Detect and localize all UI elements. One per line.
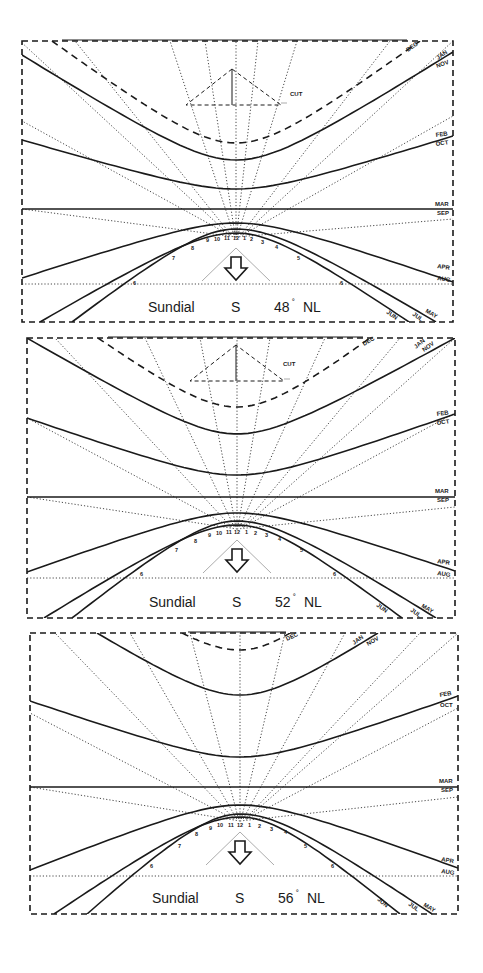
hour-label: 10	[214, 236, 220, 242]
month-label-aug: AUG	[437, 570, 451, 578]
caption-title: Sundial	[148, 299, 195, 315]
hour-line	[238, 41, 297, 235]
month-label-dec: DEC	[362, 335, 377, 347]
month-label-sep: SEP	[437, 497, 449, 503]
hour-label: 5	[297, 255, 300, 261]
month-label-feb: FEB	[439, 690, 453, 698]
hour-label: 12	[237, 822, 243, 828]
hour-line-7	[30, 787, 240, 821]
caption-title: Sundial	[149, 594, 196, 610]
degree-symbol: ˚	[292, 298, 295, 308]
cut-border	[22, 41, 453, 322]
jan-nov-line	[22, 52, 453, 160]
hour-line	[22, 121, 230, 235]
month-label-oct: OCT	[436, 418, 450, 426]
month-label-jun: JUN	[375, 602, 388, 614]
cut-label: CUT	[290, 91, 303, 97]
month-label-jul: JUL	[411, 311, 424, 323]
month-label-jul: JUL	[407, 901, 420, 913]
month-label-feb: FEB	[435, 130, 448, 138]
hour-line	[190, 633, 239, 819]
hour-label: 6	[133, 280, 136, 286]
cut-label: CUT	[283, 361, 296, 367]
month-label-mar: MAR	[439, 778, 453, 784]
month-label-oct: OCT	[435, 139, 449, 147]
hour-line	[244, 338, 455, 527]
hour-label: 10	[217, 822, 223, 828]
hour-line	[243, 41, 453, 235]
hour-label: 5	[300, 547, 303, 553]
hour-label: 11	[228, 822, 234, 828]
month-label-aug: AUG	[441, 868, 455, 876]
month-label-jun: JUN	[385, 309, 398, 321]
degree-symbol: ˚	[296, 889, 299, 899]
hour-line	[237, 41, 258, 235]
hour-line-7	[27, 497, 237, 529]
cut-border	[30, 633, 458, 914]
gnomon-template	[186, 69, 281, 105]
june-line	[54, 817, 400, 914]
caption-latitude: 48	[274, 299, 290, 315]
hour-label: 10	[216, 530, 222, 536]
december-line	[52, 41, 420, 143]
month-label-mar: MAR	[435, 201, 449, 207]
hour-label: 1	[243, 235, 246, 241]
month-label-dec: DEC	[285, 631, 300, 642]
jan-nov-line	[27, 338, 455, 434]
month-label-nov: NOV	[366, 635, 380, 647]
caption-hemisphere: NL	[307, 890, 325, 906]
month-label-sep: SEP	[441, 787, 453, 793]
month-label-apr: APR	[437, 263, 451, 271]
south-arrow-icon	[225, 257, 247, 280]
sundial-panel-56: DECJANNOVFEBOCTMARSEPAPRAUGMAYJULJUN6789…	[30, 631, 458, 914]
cut-border	[27, 338, 455, 618]
june-line	[40, 233, 409, 322]
hour-line	[20, 41, 230, 235]
month-label-sep: SEP	[437, 210, 449, 216]
hour-label: 5	[304, 843, 307, 849]
caption-direction: S	[232, 594, 241, 610]
caption-hemisphere: NL	[304, 594, 322, 610]
month-label-oct: OCT	[440, 702, 453, 708]
month-label-mar: MAR	[435, 488, 449, 494]
caption-title: Sundial	[152, 890, 199, 906]
hour-label: 6	[150, 863, 153, 869]
december-line	[182, 633, 290, 650]
hour-label: 3	[265, 532, 268, 538]
south-arrow-icon	[226, 549, 248, 572]
hour-label: 7	[172, 255, 175, 261]
sundial-panel-48: CUTDECJANNOVFEBOCTMARSEPAPRAUGMAYJULJUN6…	[20, 40, 453, 323]
feb-oct-line	[30, 696, 458, 757]
caption-hemisphere: NL	[303, 299, 321, 315]
hour-label: 9	[206, 237, 209, 243]
hour-line	[170, 41, 234, 235]
hour-label: 9	[209, 825, 212, 831]
hour-label: 7	[178, 843, 181, 849]
caption-latitude: 56	[278, 890, 294, 906]
caption-direction: S	[235, 890, 244, 906]
june-line	[44, 525, 402, 618]
sundial-figure: CUTDECJANNOVFEBOCTMARSEPAPRAUGMAYJULJUN6…	[0, 0, 483, 973]
month-label-may: MAY	[425, 308, 439, 320]
hour-label: 2	[258, 823, 261, 829]
hour-line	[247, 633, 458, 819]
feb-oct-line	[22, 136, 453, 189]
month-label-jan: JAN	[351, 634, 364, 646]
feb-oct-line	[27, 414, 455, 475]
sundial-panel-52: CUTDECJANNOVFEBOCTMARSEPAPRAUGMAYJULJUN6…	[27, 335, 455, 619]
hour-label: 8	[194, 538, 197, 544]
hour-label: 6	[340, 280, 343, 286]
jan-nov-line	[97, 633, 378, 695]
hour-label: 2	[254, 530, 257, 536]
hour-label: 6	[333, 571, 336, 577]
hour-line	[247, 708, 458, 819]
hour-label: 8	[191, 245, 194, 251]
may-jul-line	[72, 229, 436, 322]
hour-label: 9	[208, 532, 211, 538]
month-label-aug: AUG	[437, 275, 451, 283]
hour-line-5	[237, 507, 455, 529]
caption-latitude: 52	[275, 594, 291, 610]
hour-label: 12	[233, 235, 239, 241]
hour-label: 12	[234, 529, 240, 535]
degree-symbol: ˚	[293, 593, 296, 603]
